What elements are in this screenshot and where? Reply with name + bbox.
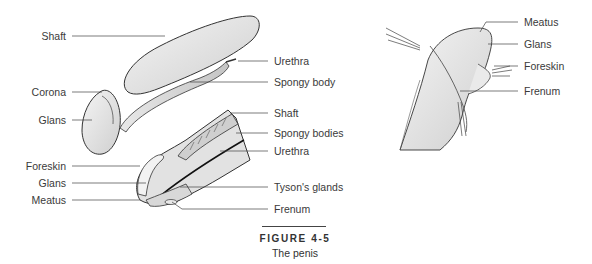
label-frenum: Frenum [274, 203, 310, 215]
section-view [137, 110, 250, 206]
label-shaft-section: Shaft [274, 107, 299, 119]
label-shaft: Shaft [0, 30, 66, 42]
label-spongy-bodies: Spongy bodies [274, 127, 343, 139]
label-right-frenum: Frenum [524, 85, 560, 97]
glans-shape [82, 90, 120, 154]
external-view [386, 28, 512, 150]
label-tysons-glands: Tyson's glands [274, 181, 343, 193]
figure-number: FIGURE 4-5 [258, 233, 332, 244]
label-urethra-section: Urethra [274, 145, 309, 157]
label-meatus: Meatus [0, 194, 66, 206]
caption-divider [262, 226, 326, 227]
label-urethra: Urethra [274, 55, 309, 67]
label-right-meatus: Meatus [524, 16, 558, 28]
figure-caption: The penis [258, 247, 332, 259]
label-corona: Corona [0, 86, 66, 98]
label-right-glans: Glans [524, 38, 551, 50]
label-glans: Glans [0, 114, 66, 126]
label-right-foreskin: Foreskin [524, 60, 564, 72]
label-foreskin: Foreskin [0, 160, 66, 172]
label-glans-section: Glans [0, 177, 66, 189]
anatomy-figure: Shaft Corona Glans Urethra Spongy body F… [0, 0, 592, 264]
label-spongy-body: Spongy body [274, 76, 335, 88]
